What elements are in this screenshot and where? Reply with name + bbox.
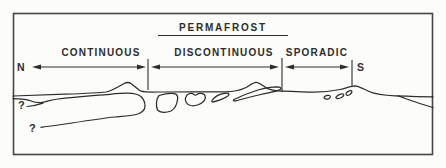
table-line-fragment [27, 103, 43, 106]
zone-label-continuous: CONTINUOUS [41, 47, 161, 58]
zone-label-discontinuous: DISCONTINUOUS [154, 47, 294, 58]
terrain-surface-line [13, 82, 433, 107]
south-edge-wedge-line [398, 96, 433, 108]
question-mark-lower: ? [29, 122, 36, 134]
south-label: S [357, 61, 364, 73]
zone-divider-ticks [148, 58, 352, 92]
diagram-title: PERMAFROST [158, 22, 288, 36]
discontinuous-patches [156, 87, 280, 113]
zone-label-sporadic: SPORADIC [277, 47, 357, 58]
zone-arrows [32, 65, 349, 70]
permafrost-zones-diagram: PERMAFROST CONTINUOUS DISCONTINUOUS SPOR… [0, 0, 446, 168]
question-mark-upper: ? [18, 99, 25, 111]
north-label: N [17, 61, 25, 73]
